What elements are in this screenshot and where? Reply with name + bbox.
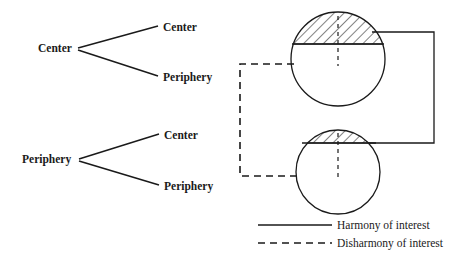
tree-leaf-label-center-center: Center <box>163 21 197 33</box>
tree-leaf-label-periphery-center: Center <box>164 129 198 141</box>
legend-label-harmony: Harmony of interest <box>337 219 430 232</box>
tree-root-label-periphery: Periphery <box>22 153 71 166</box>
legend: Harmony of interest Disharmony of intere… <box>258 219 444 250</box>
tree-group-periphery: Periphery Center Periphery <box>22 129 213 193</box>
diagram-page: Center Center Periphery Periphery Center… <box>0 0 455 260</box>
tree-leaf-label-center-periphery: Periphery <box>163 71 212 84</box>
harmony-connector <box>368 32 434 143</box>
diagram-canvas: Center Center Periphery Periphery Center… <box>0 0 455 260</box>
tree-branch-periphery-to-periphery <box>79 161 159 185</box>
tree-branch-periphery-to-center <box>79 134 159 159</box>
lower-circle <box>292 128 384 214</box>
legend-label-disharmony: Disharmony of interest <box>337 237 444 250</box>
tree-leaf-label-periphery-periphery: Periphery <box>164 180 213 193</box>
tree-branch-center-to-center <box>78 26 158 48</box>
tree-root-label-center: Center <box>38 42 72 54</box>
upper-circle <box>288 10 388 106</box>
tree-branch-center-to-periphery <box>78 50 158 76</box>
disharmony-connector <box>240 64 296 176</box>
tree-group-center: Center Center Periphery <box>38 21 212 84</box>
